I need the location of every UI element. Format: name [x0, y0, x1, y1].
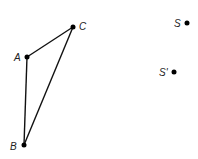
- segment-BC: [24, 27, 73, 145]
- point-S-prime: [172, 70, 177, 75]
- label-C: C: [79, 21, 87, 32]
- label-B: B: [10, 141, 17, 152]
- label-S-prime: S': [159, 67, 169, 78]
- point-B: [22, 143, 27, 148]
- label-A: A: [13, 52, 21, 63]
- point-A: [25, 55, 30, 60]
- diagram-canvas: A B C S S': [0, 0, 198, 159]
- segment-AB: [24, 57, 27, 145]
- point-S: [185, 21, 190, 26]
- label-S: S: [174, 18, 181, 29]
- point-C: [71, 25, 76, 30]
